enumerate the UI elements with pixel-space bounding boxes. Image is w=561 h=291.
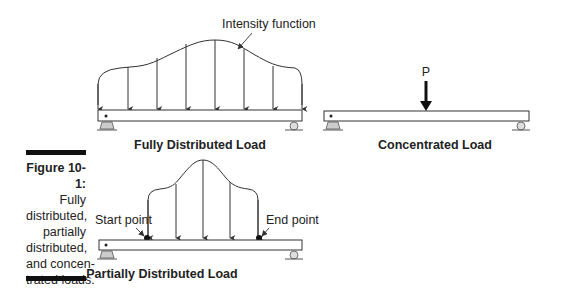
caption-line: and concen- (26, 256, 86, 272)
roller-support-icon (512, 122, 530, 130)
beam (99, 240, 302, 250)
start-point-label: Start point (95, 213, 153, 227)
fully-distributed-diagram: Intensity function Fully Distributed Loa… (97, 17, 316, 152)
end-leader-arrow (262, 228, 269, 236)
intensity-leader-arrow (238, 33, 252, 49)
caption-top-rule (26, 150, 86, 155)
roller-support-icon (285, 122, 303, 130)
concentrated-load-arrow (420, 81, 432, 111)
figure-number: Figure 10-1: (26, 160, 86, 192)
beam (98, 110, 302, 121)
pin-support-icon (323, 122, 343, 130)
roller-support-icon (285, 251, 303, 259)
pin-support-icon (97, 251, 117, 259)
partially-distributed-diagram: Start point End point Partially Distribu… (86, 160, 319, 281)
partially-distributed-title: Partially Distributed Load (86, 267, 237, 281)
pin-support-icon (97, 122, 117, 130)
load-p-label: P (422, 65, 430, 79)
pin-marker-icon (105, 115, 108, 118)
caption-line: partially (26, 224, 86, 240)
caption-line: distributed, (26, 208, 86, 224)
caption-bottom-rule (26, 276, 86, 281)
intensity-function-curve (98, 40, 302, 105)
figure-caption: Figure 10-1: Fully distributed, partiall… (26, 160, 86, 288)
caption-line: Fully (26, 192, 86, 208)
caption-line: distributed, (26, 240, 86, 256)
partial-load-arrows (148, 160, 258, 238)
pin-marker-icon (105, 244, 108, 247)
concentrated-diagram: P Concentrated Load (323, 65, 530, 152)
intensity-function-label: Intensity function (222, 17, 316, 31)
distributed-load-arrows (98, 40, 302, 109)
start-leader-arrow (136, 228, 144, 236)
concentrated-title: Concentrated Load (378, 138, 492, 152)
fully-distributed-title: Fully Distributed Load (134, 138, 266, 152)
beam (324, 111, 529, 121)
pin-marker-icon (330, 115, 333, 118)
end-point-label: End point (266, 213, 319, 227)
